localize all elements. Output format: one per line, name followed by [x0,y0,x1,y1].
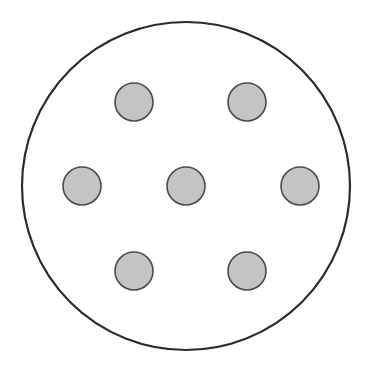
inner-circle-middle-left [63,167,101,205]
circle-packing-diagram [0,0,372,369]
inner-circle-bottom-left [115,252,153,290]
inner-circle-middle-right [281,167,319,205]
figure-canvas [0,0,372,369]
inner-circle-top-left [115,83,153,121]
inner-circle-top-right [228,83,266,121]
inner-circle-center [167,167,205,205]
inner-circle-bottom-right [228,252,266,290]
